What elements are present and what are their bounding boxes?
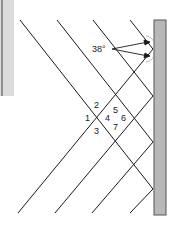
angle-1: 1 [85,113,90,123]
angle-7: 7 [113,122,118,132]
angle-arrows [112,40,150,58]
wall [154,20,166,215]
angle-2: 2 [94,100,99,110]
reflection-diagram: 38° 2 1 4 3 5 6 7 [0,0,174,238]
angle-label-38: 38° [92,44,106,54]
angle-5: 5 [113,105,118,115]
reflected-rays [18,49,153,213]
angle-4: 4 [105,113,110,123]
angle-6: 6 [121,113,126,123]
angle-3: 3 [94,126,99,136]
